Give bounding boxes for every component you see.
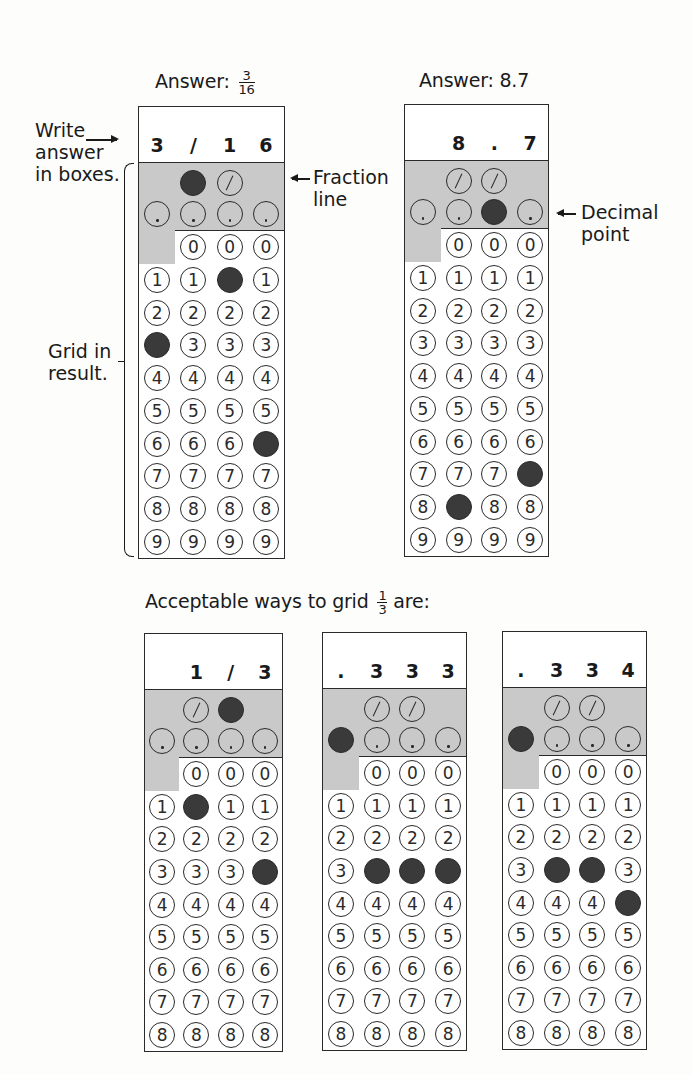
digit-bubble-1[interactable]: 1 (615, 792, 641, 818)
digit-bubble-1[interactable]: 1 (252, 794, 278, 820)
digit-bubble-5[interactable]: 5 (615, 922, 641, 948)
digit-bubble-0[interactable]: 0 (446, 232, 472, 258)
digit-bubble-6[interactable]: 6 (180, 431, 206, 457)
digit-bubble-1[interactable]: 1 (253, 267, 279, 293)
digit-bubble-4[interactable]: 4 (446, 363, 472, 389)
digit-bubble-7[interactable]: 7 (544, 987, 570, 1013)
digit-bubble-6[interactable]: 6 (481, 429, 507, 455)
digit-bubble-5[interactable]: 5 (446, 396, 472, 422)
digit-bubble-5[interactable]: 5 (328, 923, 354, 949)
digit-bubble-5[interactable]: 5 (253, 398, 279, 424)
digit-bubble-2[interactable]: 2 (481, 298, 507, 324)
digit-bubble-7[interactable]: 7 (253, 463, 279, 489)
digit-bubble-5[interactable]: 5 (410, 396, 436, 422)
digit-bubble-3[interactable]: 3 (446, 330, 472, 356)
digit-bubble-9[interactable]: 9 (446, 527, 472, 553)
digit-bubble-2[interactable]: 2 (180, 300, 206, 326)
digit-bubble-2[interactable]: 2 (144, 300, 170, 326)
digit-bubble-8[interactable]: 8 (399, 1021, 425, 1047)
digit-bubble-0[interactable]: 0 (218, 761, 244, 787)
digit-bubble-4[interactable]: 4 (217, 365, 243, 391)
digit-bubble-4[interactable]: 4 (435, 891, 461, 917)
digit-bubble-3[interactable]: 3 (149, 859, 175, 885)
digit-bubble-4[interactable]: 4 (399, 891, 425, 917)
digit-bubble-7[interactable]: 7 (446, 461, 472, 487)
digit-bubble-2[interactable]: 2 (218, 826, 244, 852)
digit-bubble-1[interactable]: 1 (544, 792, 570, 818)
digit-bubble-8[interactable]: 8 (410, 494, 436, 520)
digit-bubble-4[interactable]: 4 (328, 891, 354, 917)
digit-bubble-6[interactable]: 6 (544, 955, 570, 981)
digit-bubble-4[interactable]: 4 (149, 892, 175, 918)
digit-bubble-0[interactable]: 0 (217, 234, 243, 260)
digit-bubble-6[interactable]: 6 (446, 429, 472, 455)
digit-bubble-3[interactable]: 3 (364, 858, 390, 884)
digit-bubble-6[interactable]: 6 (144, 431, 170, 457)
digit-bubble-0[interactable]: 0 (252, 761, 278, 787)
digit-bubble-1[interactable]: 1 (446, 265, 472, 291)
digit-bubble-1[interactable]: 1 (364, 793, 390, 819)
digit-bubble-1[interactable]: 1 (517, 265, 543, 291)
digit-bubble-1[interactable]: 1 (435, 793, 461, 819)
digit-bubble-2[interactable]: 2 (253, 300, 279, 326)
digit-bubble-7[interactable]: 7 (217, 463, 243, 489)
digit-bubble-3[interactable]: 3 (328, 858, 354, 884)
digit-bubble-7[interactable]: 7 (218, 989, 244, 1015)
digit-bubble-8[interactable]: 8 (328, 1021, 354, 1047)
digit-bubble-7[interactable]: 7 (364, 988, 390, 1014)
digit-bubble-1[interactable]: 1 (149, 794, 175, 820)
digit-bubble-2[interactable]: 2 (217, 300, 243, 326)
digit-bubble-5[interactable]: 5 (218, 924, 244, 950)
digit-bubble-0[interactable]: 0 (364, 760, 390, 786)
digit-bubble-5[interactable]: 5 (144, 398, 170, 424)
digit-bubble-8[interactable]: 8 (364, 1021, 390, 1047)
digit-bubble-7[interactable]: 7 (252, 989, 278, 1015)
digit-bubble-2[interactable]: 2 (544, 824, 570, 850)
digit-bubble-9[interactable]: 9 (517, 527, 543, 553)
digit-bubble-4[interactable]: 4 (218, 892, 244, 918)
digit-bubble-8[interactable]: 8 (579, 1020, 605, 1046)
digit-bubble-4[interactable]: 4 (183, 892, 209, 918)
digit-bubble-4[interactable]: 4 (579, 890, 605, 916)
digit-bubble-1[interactable]: 1 (328, 793, 354, 819)
digit-bubble-1[interactable]: 1 (144, 267, 170, 293)
digit-bubble-3[interactable]: 3 (544, 857, 570, 883)
digit-bubble-8[interactable]: 8 (446, 494, 472, 520)
digit-bubble-1[interactable]: 1 (217, 267, 243, 293)
digit-bubble-6[interactable]: 6 (364, 956, 390, 982)
digit-bubble-6[interactable]: 6 (579, 955, 605, 981)
digit-bubble-4[interactable]: 4 (364, 891, 390, 917)
digit-bubble-6[interactable]: 6 (183, 957, 209, 983)
digit-bubble-8[interactable]: 8 (149, 1022, 175, 1048)
digit-bubble-5[interactable]: 5 (217, 398, 243, 424)
digit-bubble-6[interactable]: 6 (410, 429, 436, 455)
digit-bubble-4[interactable]: 4 (252, 892, 278, 918)
digit-bubble-5[interactable]: 5 (435, 923, 461, 949)
digit-bubble-9[interactable]: 9 (253, 529, 279, 555)
digit-bubble-6[interactable]: 6 (328, 956, 354, 982)
digit-bubble-7[interactable]: 7 (508, 987, 534, 1013)
digit-bubble-3[interactable]: 3 (508, 857, 534, 883)
digit-bubble-4[interactable]: 4 (544, 890, 570, 916)
digit-bubble-6[interactable]: 6 (508, 955, 534, 981)
digit-bubble-9[interactable]: 9 (217, 529, 243, 555)
digit-bubble-3[interactable]: 3 (435, 858, 461, 884)
digit-bubble-1[interactable]: 1 (508, 792, 534, 818)
digit-bubble-2[interactable]: 2 (410, 298, 436, 324)
digit-bubble-8[interactable]: 8 (435, 1021, 461, 1047)
digit-bubble-8[interactable]: 8 (508, 1020, 534, 1046)
digit-bubble-6[interactable]: 6 (217, 431, 243, 457)
digit-bubble-6[interactable]: 6 (252, 957, 278, 983)
digit-bubble-3[interactable]: 3 (252, 859, 278, 885)
digit-bubble-4[interactable]: 4 (253, 365, 279, 391)
digit-bubble-8[interactable]: 8 (252, 1022, 278, 1048)
digit-bubble-4[interactable]: 4 (410, 363, 436, 389)
digit-bubble-8[interactable]: 8 (144, 496, 170, 522)
digit-bubble-5[interactable]: 5 (149, 924, 175, 950)
digit-bubble-6[interactable]: 6 (615, 955, 641, 981)
digit-bubble-6[interactable]: 6 (517, 429, 543, 455)
digit-bubble-6[interactable]: 6 (435, 956, 461, 982)
digit-bubble-8[interactable]: 8 (517, 494, 543, 520)
digit-bubble-5[interactable]: 5 (252, 924, 278, 950)
digit-bubble-2[interactable]: 2 (517, 298, 543, 324)
